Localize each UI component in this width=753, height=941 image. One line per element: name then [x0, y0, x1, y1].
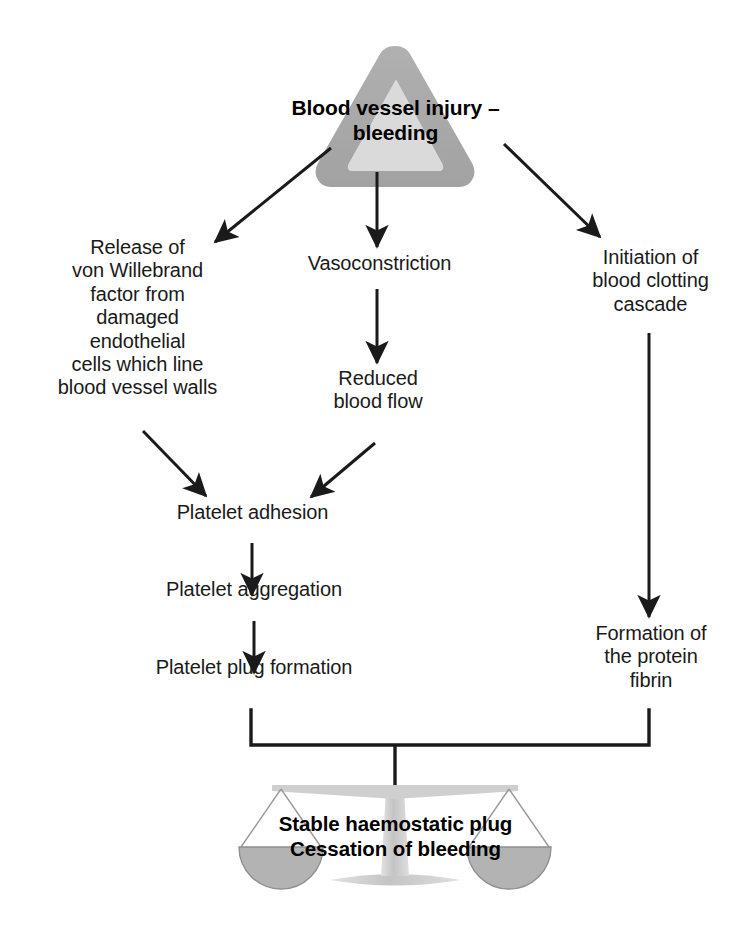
edge-vwf-to-platelet-adhesion	[143, 431, 206, 496]
edge-injury-to-clotting-cascade	[504, 144, 600, 237]
node-vasoconstriction: Vasoconstriction	[292, 252, 467, 275]
node-blood-vessel-injury: Blood vessel injury – bleeding	[283, 96, 508, 145]
edge-injury-to-vwf	[215, 148, 331, 242]
node-clotting-cascade: Initiation of blood clotting cascade	[558, 246, 743, 316]
node-platelet-adhesion: Platelet adhesion	[150, 501, 355, 524]
edge-reduced-flow-to-platelet-adhesion	[311, 443, 375, 497]
node-fibrin-formation: Formation of the protein fibrin	[561, 622, 741, 692]
node-reduced-blood-flow: Reduced blood flow	[303, 367, 453, 414]
node-outcome-cessation-bleeding: Cessation of bleeding	[243, 837, 548, 861]
node-platelet-aggregation: Platelet aggregation	[141, 578, 367, 601]
node-von-willebrand-release: Release of von Willebrand factor from da…	[30, 236, 245, 400]
flowchart-canvas: Blood vessel injury – bleeding Release o…	[0, 0, 753, 941]
edge-bracket-merge	[251, 710, 649, 745]
node-platelet-plug-formation: Platelet plug formation	[128, 656, 380, 679]
node-outcome-stable-plug: Stable haemostatic plug	[243, 812, 548, 836]
